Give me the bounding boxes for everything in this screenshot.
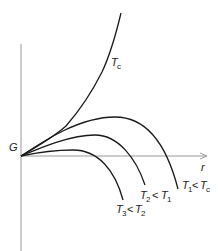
y-axis-label: G (9, 141, 18, 153)
svg-text:<: < (152, 189, 158, 201)
curve-tc (21, 13, 121, 156)
label-t1-lt-tc: T 1 < T c (182, 179, 210, 194)
curve-t3 (21, 150, 123, 200)
label-t3-lt-t2: T 3 < T 2 (116, 203, 146, 218)
svg-text:2: 2 (146, 195, 151, 204)
label-tc: T c (111, 56, 121, 71)
svg-text:<: < (127, 203, 133, 215)
svg-text:c: c (206, 185, 210, 194)
svg-text:<: < (192, 179, 198, 191)
svg-text:1: 1 (167, 195, 172, 204)
svg-text:2: 2 (141, 209, 146, 218)
curve-t2 (21, 135, 145, 185)
curve-t1 (21, 117, 178, 189)
label-t2-lt-t1: T 2 < T 1 (140, 189, 172, 204)
svg-text:c: c (117, 62, 121, 71)
x-axis-label: r (201, 161, 206, 173)
free-energy-diagram: G r T c T 1 < T c T 2 < T 1 T 3 < T 2 (0, 0, 218, 251)
